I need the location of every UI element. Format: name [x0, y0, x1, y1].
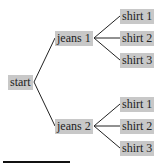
node-jeans1-shirt-3: shirt 3 — [120, 53, 154, 68]
node-jeans2-shirt-2: shirt 2 — [120, 119, 154, 134]
node-jeans2-shirt-1: shirt 1 — [120, 97, 154, 112]
divider-rule — [3, 161, 70, 163]
node-jeans1-shirt-2: shirt 2 — [120, 31, 154, 46]
node-jeans-2: jeans 2 — [55, 119, 93, 134]
node-jeans2-shirt-3: shirt 3 — [120, 141, 154, 156]
node-jeans-1: jeans 1 — [55, 31, 93, 46]
node-start: start — [8, 75, 33, 90]
node-jeans1-shirt-1: shirt 1 — [120, 9, 154, 24]
